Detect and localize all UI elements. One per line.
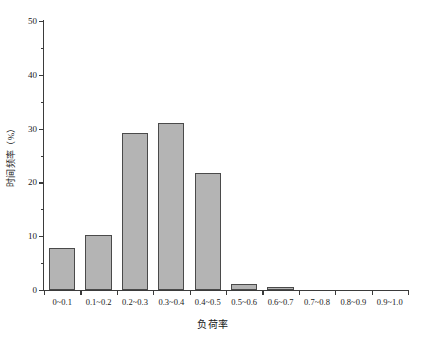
y-tick-mark-minor xyxy=(41,263,44,264)
y-tick-mark xyxy=(39,182,44,183)
x-tick-label-0.4~0.5: 0.4~0.5 xyxy=(195,298,221,307)
y-tick-mark-minor xyxy=(41,102,44,103)
y-tick-mark-minor xyxy=(41,48,44,49)
bar-0.2~0.3 xyxy=(122,133,148,290)
bar-0.1~0.2 xyxy=(85,235,111,290)
x-tick-mark xyxy=(153,290,154,295)
x-tick-mark xyxy=(117,290,118,295)
y-tick-mark-minor xyxy=(41,156,44,157)
bar-0.6~0.7 xyxy=(267,287,293,290)
x-tick-label-0.9~1.0: 0.9~1.0 xyxy=(377,298,403,307)
bar-0.3~0.4 xyxy=(158,123,184,290)
bar-0.4~0.5 xyxy=(195,173,221,290)
x-tick-mark xyxy=(226,290,227,295)
x-axis-title: 负荷率 xyxy=(0,316,426,331)
x-tick-mark xyxy=(372,290,373,295)
x-tick-mark xyxy=(262,290,263,295)
x-tick-mark xyxy=(335,290,336,295)
plot-area: 01020304050 0~0.10.1~0.20.2~0.30.3~0.40.… xyxy=(44,21,408,290)
y-tick-label: 50 xyxy=(28,17,37,26)
bar-0~0.1 xyxy=(49,248,75,290)
x-tick-mark xyxy=(80,290,81,295)
x-tick-label-0.1~0.2: 0.1~0.2 xyxy=(86,298,112,307)
x-tick-label-0.2~0.3: 0.2~0.3 xyxy=(122,298,148,307)
x-tick-label-0~0.1: 0~0.1 xyxy=(52,298,71,307)
x-tick-mark xyxy=(299,290,300,295)
y-tick-label: 20 xyxy=(28,178,37,187)
y-tick-label: 0 xyxy=(33,286,38,295)
y-tick-mark-minor xyxy=(41,209,44,210)
x-tick-label-0.7~0.8: 0.7~0.8 xyxy=(304,298,330,307)
y-tick-mark xyxy=(39,75,44,76)
x-tick-label-0.5~0.6: 0.5~0.6 xyxy=(231,298,257,307)
y-axis-title: 时间频率（%） xyxy=(4,21,22,290)
y-tick-label: 30 xyxy=(28,124,37,133)
x-tick-label-0.6~0.7: 0.6~0.7 xyxy=(268,298,294,307)
x-tick-mark xyxy=(190,290,191,295)
y-tick-label: 40 xyxy=(28,70,37,79)
x-tick-mark xyxy=(408,290,409,295)
y-tick-mark xyxy=(39,129,44,130)
x-tick-label-0.8~0.9: 0.8~0.9 xyxy=(340,298,366,307)
x-tick-mark xyxy=(44,290,45,295)
x-tick-label-0.3~0.4: 0.3~0.4 xyxy=(158,298,184,307)
bar-chart-figure: 01020304050 0~0.10.1~0.20.2~0.30.3~0.40.… xyxy=(0,0,426,340)
y-tick-mark xyxy=(39,21,44,22)
y-tick-label: 10 xyxy=(28,232,37,241)
y-tick-mark xyxy=(39,236,44,237)
bar-0.5~0.6 xyxy=(231,284,257,290)
